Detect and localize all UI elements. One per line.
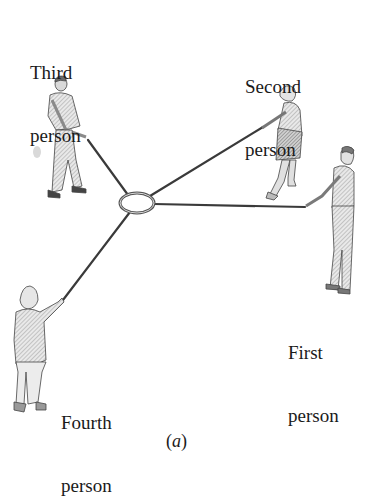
- caption-letter: a: [172, 431, 181, 451]
- label-first-person: First person: [288, 300, 339, 468]
- label-second-line2: person: [245, 139, 301, 160]
- label-second-person: Second person: [245, 34, 301, 202]
- label-second-line1: Second: [245, 76, 301, 97]
- label-fourth-line1: Fourth: [61, 412, 112, 433]
- label-first-line2: person: [288, 405, 339, 426]
- first-person-figure: [306, 146, 354, 294]
- label-third-line1: Third: [30, 62, 81, 83]
- label-fourth-person: Fourth person: [61, 370, 112, 500]
- caption-close-paren: ): [181, 431, 187, 451]
- fourth-person-figure: [14, 286, 64, 412]
- label-first-line1: First: [288, 342, 339, 363]
- label-third-line2: person: [30, 125, 81, 146]
- label-fourth-line2: person: [61, 475, 112, 496]
- rope-third: [88, 140, 128, 195]
- figure-caption: (a): [166, 431, 187, 452]
- label-third-person: Third person: [30, 20, 81, 188]
- rope-first: [154, 204, 305, 207]
- ring: [120, 193, 154, 213]
- rope-fourth: [63, 212, 130, 300]
